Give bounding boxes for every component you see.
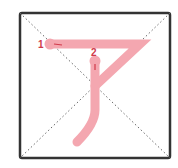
stroke-1: 1: [38, 39, 140, 87]
stroke-number-label: 2: [91, 47, 97, 58]
stroke-2: 2: [77, 47, 101, 142]
stroke-number-label: 1: [38, 39, 44, 50]
stroke-start-dot: [45, 39, 56, 50]
stroke-order-diagram: 12: [0, 0, 178, 168]
stroke-path: [77, 61, 95, 142]
